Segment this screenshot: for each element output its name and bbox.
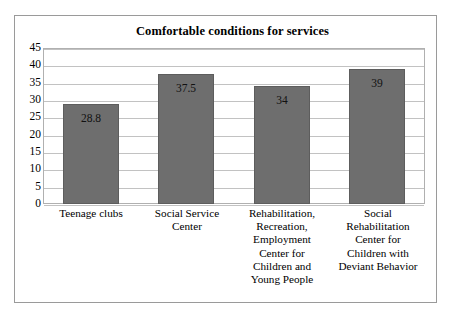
category-label-line: Children with: [330, 247, 426, 260]
bar-value-label: 37.5: [159, 82, 213, 94]
category-label-line: Social: [330, 207, 426, 220]
bar-value-label: 39: [350, 77, 404, 89]
bar-value-label: 28.8: [64, 112, 118, 124]
category-label-line: Young People: [234, 273, 330, 286]
gridline: [44, 49, 424, 50]
y-axis-tick-label: 5: [15, 181, 41, 192]
gridline: [44, 205, 424, 206]
y-axis-tick-label: 15: [15, 146, 41, 157]
x-axis-category-label: Teenage clubs: [43, 207, 139, 220]
x-axis-category-label: Rehabilitation,Recreation,EmploymentCent…: [234, 207, 330, 286]
y-axis-tick-labels: 454035302520151050: [15, 48, 41, 204]
category-label-line: Employment: [234, 233, 330, 246]
category-label-line: Rehabilitation: [330, 220, 426, 233]
category-label-line: Rehabilitation,: [234, 207, 330, 220]
y-axis-tick-label: 20: [15, 129, 41, 140]
y-axis-tick-label: 25: [15, 111, 41, 122]
x-axis-category-labels: Teenage clubsSocial ServiceCenterRehabil…: [43, 207, 425, 299]
category-label-line: Center for: [330, 233, 426, 246]
category-label-line: Social Service: [139, 207, 235, 220]
bar[interactable]: 28.8: [63, 104, 119, 204]
category-label-line: Recreation,: [234, 220, 330, 233]
bar[interactable]: 37.5: [158, 74, 214, 204]
bar-value-label: 34: [255, 94, 309, 106]
x-axis-category-label: Social ServiceCenter: [139, 207, 235, 233]
bar[interactable]: 34: [254, 86, 310, 204]
plot-wrap: 28.837.53439: [43, 48, 425, 204]
y-axis-tick-label: 30: [15, 94, 41, 105]
chart-frame: Comfortable conditions for services 4540…: [14, 15, 437, 303]
y-axis-tick-label: 45: [15, 42, 41, 53]
category-label-line: Deviant Behavior: [330, 260, 426, 273]
category-label-line: Teenage clubs: [43, 207, 139, 220]
category-label-line: Children and: [234, 260, 330, 273]
y-axis-tick-label: 35: [15, 77, 41, 88]
category-label-line: Center: [139, 220, 235, 233]
chart-title: Comfortable conditions for services: [15, 24, 436, 39]
category-label-line: Center for: [234, 247, 330, 260]
gridline: [44, 66, 424, 67]
bar[interactable]: 39: [349, 69, 405, 204]
y-axis-tick-label: 0: [15, 198, 41, 209]
x-axis-category-label: SocialRehabilitationCenter forChildren w…: [330, 207, 426, 273]
y-axis-tick-label: 10: [15, 163, 41, 174]
y-axis-tick-label: 40: [15, 59, 41, 70]
